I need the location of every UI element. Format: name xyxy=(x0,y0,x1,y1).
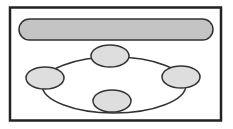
node-right xyxy=(162,66,200,88)
top-bar xyxy=(19,19,213,40)
node-left xyxy=(26,67,64,89)
node-bottom xyxy=(93,90,131,112)
diagram-canvas xyxy=(0,0,233,129)
node-top xyxy=(91,45,129,67)
